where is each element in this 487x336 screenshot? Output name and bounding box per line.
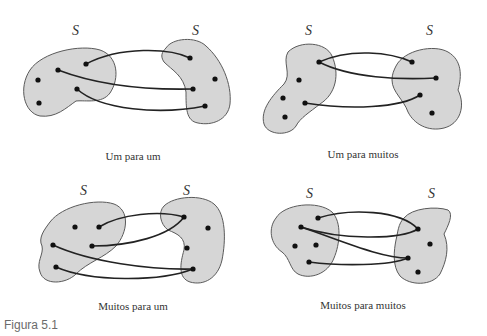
- set-label-left: S: [80, 183, 87, 198]
- set-label-right: S: [426, 23, 433, 38]
- caption-many-to-one: Muitos para um: [98, 300, 168, 312]
- set-blob-right: [392, 48, 462, 129]
- set-label-left: S: [305, 23, 312, 38]
- set-label-left: S: [306, 186, 313, 201]
- set-blob-left: [263, 44, 336, 133]
- set-label-right: S: [428, 186, 435, 201]
- relationship-cardinality-figure: S S Um para um S S Um para muitos S S: [0, 0, 487, 336]
- set-label-right: S: [192, 23, 199, 38]
- figure-label: Figura 5.1: [4, 318, 58, 332]
- set-blob-left: [39, 202, 126, 282]
- set-label-left: S: [72, 23, 79, 38]
- panel-one-to-one: S S Um para um: [24, 23, 231, 162]
- panel-one-to-many: S S Um para muitos: [263, 23, 461, 160]
- caption-one-to-one: Um para um: [106, 150, 161, 162]
- set-label-right: S: [183, 183, 190, 198]
- caption-many-to-many: Muitos para muitos: [320, 299, 406, 311]
- caption-one-to-many: Um para muitos: [328, 148, 399, 160]
- panel-many-to-many: S S Muitos para muitos: [271, 186, 450, 311]
- panel-many-to-one: S S Muitos para um: [39, 183, 225, 312]
